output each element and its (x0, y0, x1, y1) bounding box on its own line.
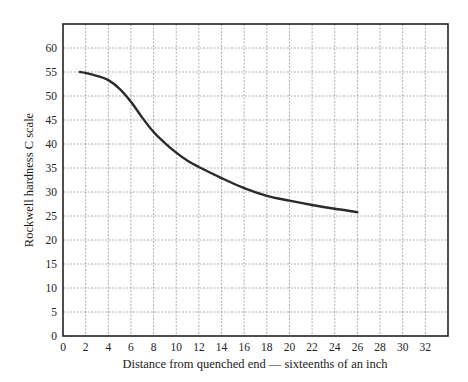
plot-frame (63, 24, 448, 336)
y-axis-label: Rockwell hardness C scale (22, 112, 36, 247)
y-tick-label: 35 (46, 162, 58, 174)
y-tick-label: 40 (46, 138, 58, 150)
y-tick-label: 10 (46, 282, 58, 294)
x-tick-label: 0 (60, 341, 66, 353)
y-tick-label: 25 (46, 210, 58, 222)
x-tick-label: 4 (105, 341, 111, 353)
hardness-curve (80, 72, 357, 212)
x-tick-label: 12 (193, 341, 205, 353)
y-tick-label: 0 (51, 330, 57, 342)
y-tick-label: 30 (46, 186, 58, 198)
x-tick-label: 18 (261, 341, 273, 353)
y-tick-label: 20 (46, 234, 58, 246)
hardness-chart: 02468101214161820222426283032 0510152025… (0, 0, 468, 382)
x-tick-label: 26 (352, 341, 364, 353)
x-axis-ticks: 02468101214161820222426283032 (60, 341, 431, 353)
y-tick-label: 5 (51, 306, 57, 318)
y-tick-label: 15 (46, 258, 58, 270)
grid-lines (63, 24, 448, 336)
x-tick-label: 20 (284, 341, 296, 353)
x-axis-label: Distance from quenched end — sixteenths … (122, 357, 388, 371)
x-tick-label: 30 (397, 341, 409, 353)
x-tick-label: 8 (151, 341, 157, 353)
x-tick-label: 24 (329, 341, 341, 353)
x-tick-label: 6 (128, 341, 134, 353)
y-tick-label: 60 (46, 42, 58, 54)
x-tick-label: 14 (216, 341, 228, 353)
y-tick-label: 50 (46, 90, 58, 102)
x-tick-label: 2 (83, 341, 89, 353)
x-tick-label: 16 (238, 341, 250, 353)
x-tick-label: 22 (306, 341, 318, 353)
x-tick-label: 32 (420, 341, 432, 353)
x-tick-label: 10 (170, 341, 182, 353)
y-tick-label: 45 (46, 114, 58, 126)
y-tick-label: 55 (46, 66, 58, 78)
y-axis-ticks: 051015202530354045505560 (46, 42, 58, 342)
series-line (80, 72, 357, 212)
x-tick-label: 28 (374, 341, 386, 353)
